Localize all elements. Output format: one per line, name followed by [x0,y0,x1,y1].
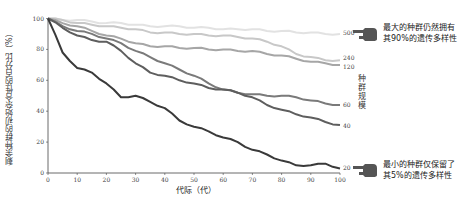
x-tick-label: 40 [161,176,169,183]
series-end-labels: 500240120604020 [343,29,355,171]
x-tick-label: 10 [73,176,81,183]
annotation-line: 最大的种群仍然拥有 [383,22,457,33]
series-label-500: 500 [343,29,355,36]
pointing-hand-icon [353,164,377,177]
series-label-120: 120 [343,63,355,70]
series-label-240: 240 [343,54,355,61]
x-tick-label: 100 [334,176,346,183]
annotation-line: 其90%的遗传多样性 [383,33,457,44]
pointing-hand-icon [353,28,377,41]
chart-series-lines [48,19,340,169]
annotation-largest-population: 最大的种群仍然拥有 其90%的遗传多样性 [383,22,457,44]
legend-title: 种群规模 [355,74,366,110]
x-tick-label: 60 [219,176,227,183]
annotation-line: 其5%的遗传多样性 [383,170,455,181]
y-tick-label: 20 [36,138,44,145]
x-tick-label: 90 [307,176,315,183]
y-tick-label: 80 [36,45,44,52]
x-tick-label: 70 [249,176,257,183]
x-tick-label: 50 [190,176,198,183]
y-tick-label: 0 [40,169,44,176]
series-label-60: 60 [343,101,351,108]
x-tick-label: 0 [46,176,50,183]
x-tick-label: 20 [103,176,111,183]
x-axis-title: 代际（代） [176,185,216,196]
y-axis-title: 剩余种群的初始杂合性的百分比（%） [4,22,15,172]
y-tick-label: 60 [36,76,44,83]
annotation-line: 最小的种群仅保留了 [383,159,455,170]
series-label-20: 20 [343,164,351,171]
series-label-40: 40 [343,122,351,129]
x-tick-label: 80 [278,176,286,183]
y-tick-label: 40 [36,107,44,114]
series-line-500 [48,19,340,35]
y-tick-label: 100 [33,15,45,22]
x-tick-label: 30 [132,176,140,183]
annotation-smallest-population: 最小的种群仅保留了 其5%的遗传多样性 [383,159,455,181]
